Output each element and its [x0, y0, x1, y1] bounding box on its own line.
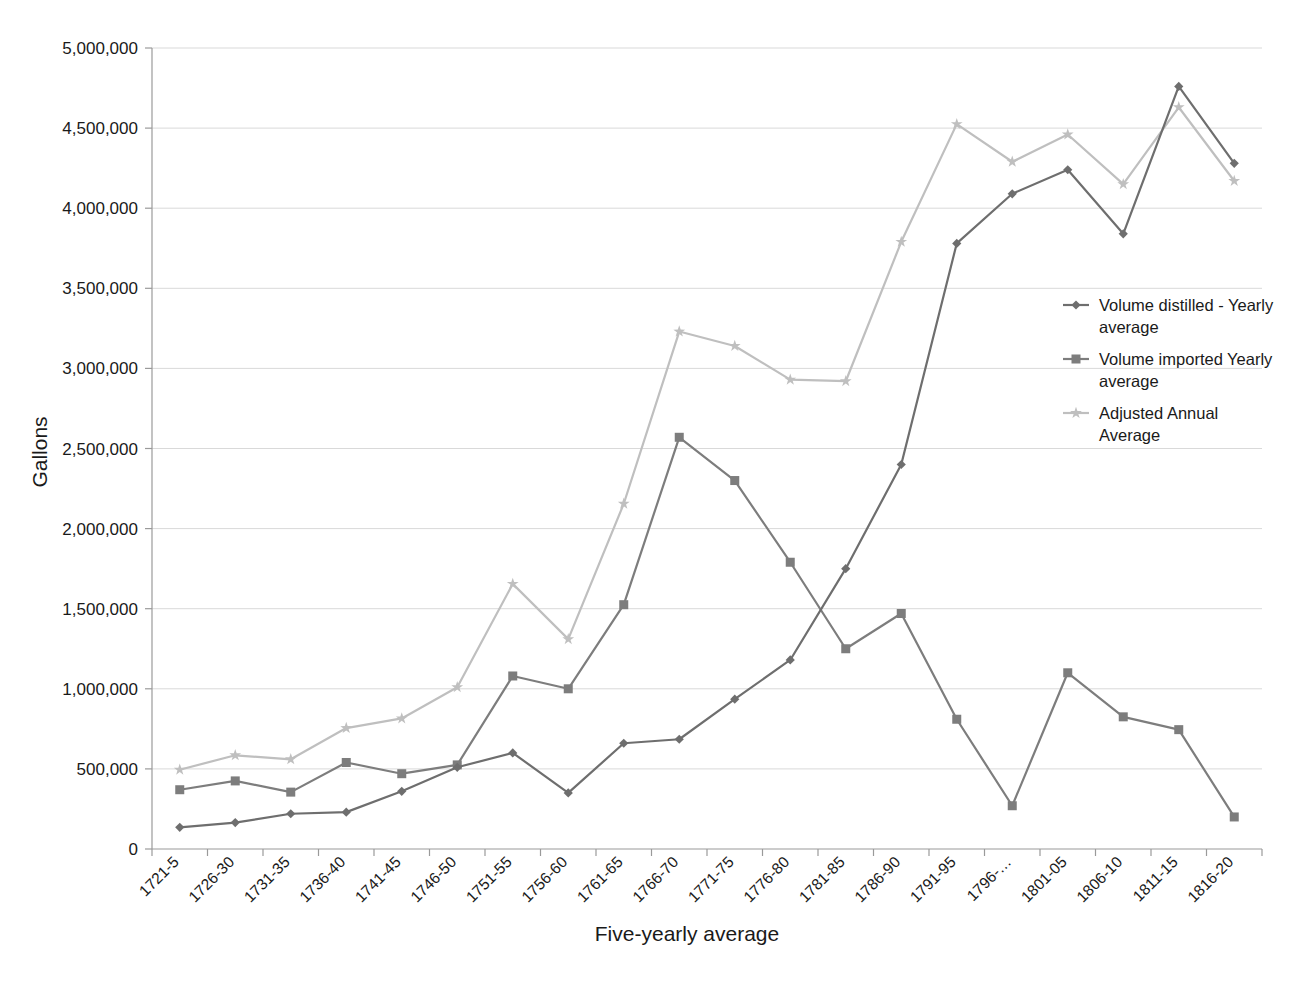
- x-tick-label: 1786-90: [851, 853, 904, 906]
- data-point-star: [1006, 156, 1018, 167]
- x-tick-label: 1811-15: [1129, 853, 1180, 904]
- series-line: [180, 107, 1235, 769]
- y-axis-title: Gallons: [28, 416, 51, 487]
- x-tick-label: 1816-20: [1184, 853, 1237, 906]
- legend-label-line1: Adjusted Annual: [1099, 404, 1218, 422]
- y-tick-label: 1,500,000: [62, 600, 138, 619]
- axes: [152, 48, 1262, 856]
- legend-label-line2: average: [1099, 372, 1159, 390]
- data-point-square: [397, 769, 406, 778]
- y-tick-label: 2,500,000: [62, 440, 138, 459]
- x-tick-label: 1806-10: [1073, 853, 1126, 906]
- y-tick-label: 3,000,000: [62, 359, 138, 378]
- data-point-square: [1072, 355, 1081, 364]
- data-point-square: [1230, 812, 1239, 821]
- data-point-diamond: [897, 460, 906, 469]
- data-point-star: [396, 712, 408, 723]
- legend-label-line1: Volume imported Yearly: [1099, 350, 1273, 368]
- series-3: [174, 101, 1240, 775]
- y-tick-label: 500,000: [77, 760, 138, 779]
- data-point-square: [841, 644, 850, 653]
- series-line: [180, 86, 1235, 827]
- data-point-square: [1174, 725, 1183, 734]
- x-tick-label: 1781-85: [796, 853, 848, 905]
- x-tick-label: 1796-…: [963, 853, 1014, 904]
- x-tick-label: 1756-60: [518, 853, 571, 906]
- legend-item-2[interactable]: Volume imported Yearlyaverage: [1063, 350, 1273, 390]
- data-point-diamond: [175, 823, 184, 832]
- data-point-square: [286, 788, 295, 797]
- data-point-square: [342, 758, 351, 767]
- data-point-square: [730, 476, 739, 485]
- legend-item-1[interactable]: Volume distilled - Yearlyaverage: [1063, 296, 1274, 336]
- data-point-star: [1173, 101, 1185, 112]
- gridlines: 0500,0001,000,0001,500,0002,000,0002,500…: [62, 39, 1262, 859]
- data-point-diamond: [1071, 300, 1080, 309]
- x-tick-label: 1791-95: [907, 853, 959, 905]
- chart-container: 0500,0001,000,0001,500,0002,000,0002,500…: [0, 0, 1301, 986]
- series-1: [175, 82, 1239, 832]
- x-tick-label: 1751-55: [463, 853, 515, 905]
- data-point-diamond: [342, 808, 351, 817]
- y-tick-label: 1,000,000: [62, 680, 138, 699]
- legend-item-3[interactable]: Adjusted AnnualAverage: [1063, 404, 1218, 444]
- x-tick-label: 1736-40: [296, 853, 349, 906]
- data-point-square: [1063, 668, 1072, 677]
- data-point-square: [564, 684, 573, 693]
- x-tick-label: 1761-65: [574, 853, 626, 905]
- x-tick-label: 1726-30: [185, 853, 238, 906]
- data-point-square: [675, 433, 684, 442]
- data-point-square: [619, 600, 628, 609]
- y-tick-label: 4,500,000: [62, 119, 138, 138]
- x-tick-label: 1801-05: [1018, 853, 1070, 905]
- data-point-square: [175, 785, 184, 794]
- x-tick-label: 1746-50: [407, 853, 460, 906]
- data-point-square: [897, 609, 906, 618]
- x-tick-label: 1776-80: [740, 853, 793, 906]
- data-point-square: [508, 671, 517, 680]
- data-point-square: [952, 715, 961, 724]
- y-tick-label: 5,000,000: [62, 39, 138, 58]
- data-point-square: [231, 776, 240, 785]
- y-tick-label: 3,500,000: [62, 279, 138, 298]
- data-point-diamond: [231, 818, 240, 827]
- series-line: [180, 437, 1235, 817]
- x-tick-label: 1721-5: [136, 853, 182, 899]
- data-point-square: [1008, 801, 1017, 810]
- y-tick-label: 2,000,000: [62, 520, 138, 539]
- data-point-diamond: [397, 787, 406, 796]
- data-point-diamond: [286, 809, 295, 818]
- data-point-star: [618, 498, 630, 509]
- data-point-square: [1119, 712, 1128, 721]
- legend-label-line2: average: [1099, 318, 1159, 336]
- x-tick-label: 1741-45: [352, 853, 404, 905]
- y-tick-label: 4,000,000: [62, 199, 138, 218]
- x-axis-title: Five-yearly average: [595, 922, 779, 945]
- x-tick-label: 1766-70: [629, 853, 682, 906]
- data-point-star: [895, 236, 907, 247]
- legend-label-line1: Volume distilled - Yearly: [1099, 296, 1274, 314]
- x-tick-label: 1771-75: [685, 853, 737, 905]
- line-chart: 0500,0001,000,0001,500,0002,000,0002,500…: [0, 0, 1301, 986]
- legend[interactable]: Volume distilled - YearlyaverageVolume i…: [1063, 296, 1274, 444]
- series-2: [175, 433, 1239, 822]
- x-tick-label: 1731-35: [241, 853, 293, 905]
- y-tick-label: 0: [129, 840, 138, 859]
- legend-label-line2: Average: [1099, 426, 1160, 444]
- data-point-square: [786, 558, 795, 567]
- x-tick-labels: 1721-51726-301731-351736-401741-451746-5…: [136, 853, 1237, 906]
